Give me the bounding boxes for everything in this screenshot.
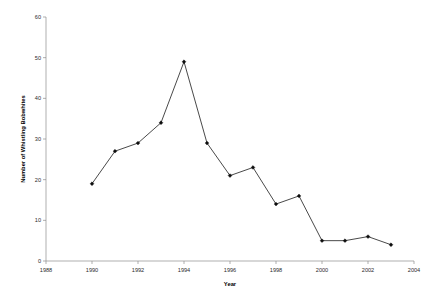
y-tick-label: 30 [35, 136, 41, 142]
data-point [251, 166, 255, 170]
x-tick-label: 1992 [132, 267, 144, 273]
y-tick-label: 50 [35, 55, 41, 61]
x-tick-label: 2004 [408, 267, 420, 273]
y-tick-label: 60 [35, 14, 41, 20]
data-point [366, 235, 370, 239]
data-point [297, 194, 301, 198]
y-axis-title: Number of Whistling Bobwhites [20, 95, 26, 183]
x-axis-title: Year [224, 281, 237, 287]
line-chart: 0102030405060 19881990199219941996199820… [0, 0, 424, 297]
x-tick-label: 1996 [224, 267, 236, 273]
y-axis-ticks: 0102030405060 [35, 14, 46, 264]
data-point-markers [90, 60, 393, 247]
x-tick-label: 1998 [270, 267, 282, 273]
data-point [389, 243, 393, 247]
data-point [343, 239, 347, 243]
x-axis-ticks: 198819901992199419961998200020022004 [40, 261, 420, 273]
x-tick-label: 1994 [178, 267, 190, 273]
x-tick-label: 2000 [316, 267, 328, 273]
y-tick-label: 0 [38, 258, 41, 264]
data-point [274, 202, 278, 206]
x-tick-label: 1988 [40, 267, 52, 273]
y-tick-label: 10 [35, 217, 41, 223]
chart-container: 0102030405060 19881990199219941996199820… [0, 0, 424, 297]
x-tick-label: 1990 [86, 267, 98, 273]
data-point [320, 239, 324, 243]
data-point [182, 60, 186, 64]
y-tick-label: 20 [35, 177, 41, 183]
x-tick-label: 2002 [362, 267, 374, 273]
series-line [92, 62, 391, 245]
y-tick-label: 40 [35, 95, 41, 101]
